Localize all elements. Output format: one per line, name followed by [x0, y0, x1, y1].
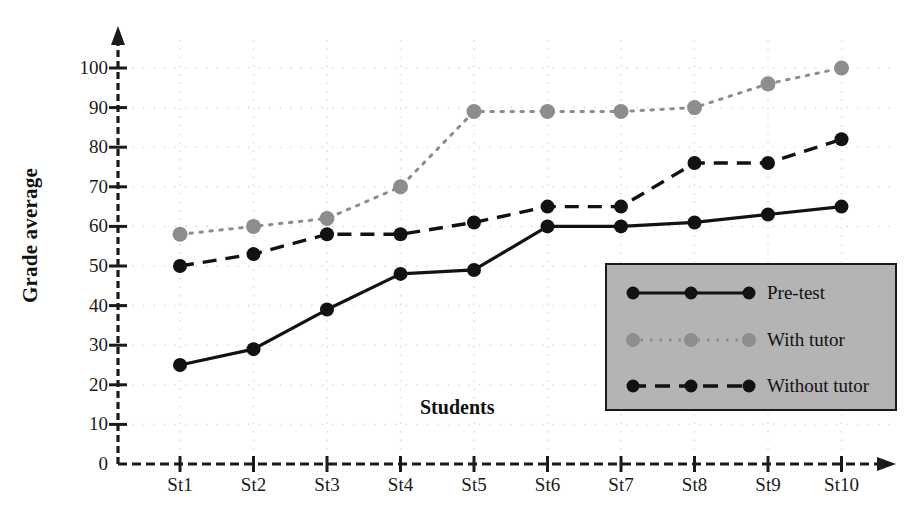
data-point — [541, 219, 555, 233]
data-point — [320, 303, 334, 317]
x-tick-label: St5 — [439, 474, 509, 496]
legend-item-without-tutor: Without tutor — [607, 366, 895, 406]
data-point — [467, 104, 482, 119]
data-point — [393, 179, 408, 194]
data-point — [247, 247, 261, 261]
data-point — [835, 132, 849, 146]
data-point — [394, 227, 408, 241]
data-point — [246, 219, 261, 234]
x-tick-label: St7 — [586, 474, 656, 496]
data-point — [834, 61, 849, 76]
data-point — [541, 200, 555, 214]
data-point — [835, 200, 849, 214]
data-point — [688, 215, 702, 229]
data-point — [761, 208, 775, 222]
legend-swatch-pre-test — [625, 280, 757, 306]
data-point — [247, 342, 261, 356]
data-point — [614, 200, 628, 214]
data-point — [761, 76, 776, 91]
legend-item-pre-test: Pre-test — [607, 273, 895, 313]
x-tick-label: St8 — [660, 474, 730, 496]
x-tick-label: St4 — [366, 474, 436, 496]
data-point — [688, 156, 702, 170]
legend-swatch-without-tutor — [625, 373, 757, 399]
x-axis-title: Students — [420, 396, 494, 419]
data-point — [761, 156, 775, 170]
legend: Pre-test With tutor — [605, 263, 897, 411]
data-point — [173, 227, 188, 242]
x-tick-label: St2 — [219, 474, 289, 496]
legend-item-with-tutor: With tutor — [607, 320, 895, 360]
chart-container: Grade average 0102030405060708090100 St1… — [0, 0, 908, 531]
data-point — [173, 259, 187, 273]
x-tick-label: St10 — [807, 474, 877, 496]
data-point — [687, 100, 702, 115]
legend-swatch-with-tutor — [625, 327, 757, 353]
data-point — [540, 104, 555, 119]
x-tick-label: St3 — [292, 474, 362, 496]
data-point — [614, 219, 628, 233]
x-tick-label: St9 — [733, 474, 803, 496]
series-without-tutor — [173, 132, 849, 273]
legend-label-without-tutor: Without tutor — [767, 375, 869, 397]
series-with-tutor — [173, 61, 850, 242]
data-point — [320, 227, 334, 241]
data-point — [614, 104, 629, 119]
data-point — [173, 358, 187, 372]
data-point — [467, 215, 481, 229]
x-tick-label: St1 — [145, 474, 215, 496]
data-point — [467, 263, 481, 277]
data-point — [394, 267, 408, 281]
x-tick-label: St6 — [513, 474, 583, 496]
data-point — [320, 211, 335, 226]
legend-label-pre-test: Pre-test — [767, 282, 825, 304]
legend-label-with-tutor: With tutor — [767, 329, 845, 351]
